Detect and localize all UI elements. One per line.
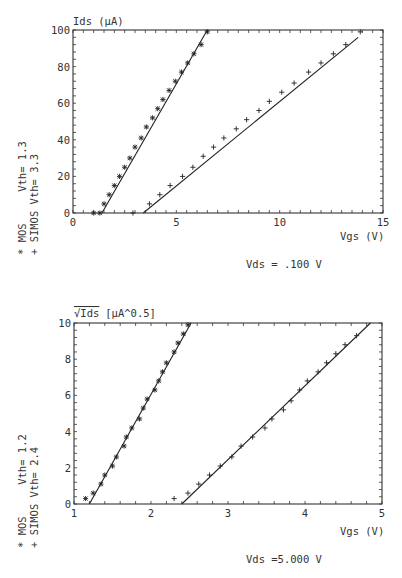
asterisk-marker xyxy=(199,42,204,47)
plus-marker xyxy=(238,443,243,448)
plus-marker xyxy=(218,463,223,468)
chart-canvas: Ids (µA) Vgs (V) Vds = .100 V * MOS Vth=… xyxy=(0,0,402,578)
asterisk-marker xyxy=(97,210,102,215)
asterisk-marker xyxy=(124,434,129,439)
asterisk-marker xyxy=(175,340,180,345)
asterisk-marker xyxy=(141,405,146,410)
plot-frame xyxy=(73,30,383,213)
asterisk-marker xyxy=(164,360,169,365)
asterisk-marker xyxy=(185,60,190,65)
x-tick-label: 10 xyxy=(273,216,286,228)
y-tick-label: 40 xyxy=(57,134,70,146)
plot1-legend-mos: * MOS Vth= 1.3 xyxy=(16,141,28,255)
plus-marker xyxy=(306,69,311,74)
plot2-x-axis-label: Vgs (V) xyxy=(340,525,384,537)
plot2-y-axis-label-root: √Ids xyxy=(74,307,99,319)
asterisk-marker xyxy=(150,115,155,120)
plus-marker xyxy=(305,378,310,383)
y-tick-label: 20 xyxy=(57,170,70,182)
asterisk-marker xyxy=(107,192,112,197)
y-tick-label: 0 xyxy=(64,207,70,219)
x-tick-label: 5 xyxy=(379,507,385,519)
plot2-legend-simos: + SIMOS Vth= 2.4 xyxy=(28,447,40,548)
x-tick-label: 3 xyxy=(225,507,231,519)
asterisk-marker xyxy=(137,416,142,421)
asterisk-marker xyxy=(127,156,132,161)
asterisk-marker xyxy=(145,396,150,401)
plus-marker xyxy=(244,117,249,122)
y-tick-label: 10 xyxy=(58,317,71,329)
asterisk-marker xyxy=(167,88,172,93)
y-tick-label: 6 xyxy=(65,389,71,401)
asterisk-marker xyxy=(132,145,137,150)
simos-fit-line xyxy=(182,323,371,504)
y-tick-label: 4 xyxy=(65,426,71,438)
mos-fit-line xyxy=(102,30,207,213)
plus-marker xyxy=(315,369,320,374)
asterisk-marker xyxy=(98,481,103,486)
x-tick-label: 5 xyxy=(173,216,179,228)
simos-fit-line xyxy=(143,37,358,213)
plus-marker xyxy=(279,90,284,95)
asterisk-marker xyxy=(155,106,160,111)
x-tick-label: 4 xyxy=(302,507,308,519)
plus-marker xyxy=(297,387,302,392)
y-tick-label: 8 xyxy=(65,353,71,365)
asterisk-marker xyxy=(83,496,88,501)
plus-marker xyxy=(221,135,226,140)
plus-marker xyxy=(318,60,323,65)
plus-marker xyxy=(234,126,239,131)
plus-marker xyxy=(289,398,294,403)
y-tick-label: 60 xyxy=(57,97,70,109)
asterisk-marker xyxy=(191,51,196,56)
plot1-legend-simos: + SIMOS Vth= 3.3 xyxy=(28,154,40,255)
asterisk-marker xyxy=(91,210,96,215)
plus-marker xyxy=(168,183,173,188)
plus-marker xyxy=(256,108,261,113)
plus-marker xyxy=(324,360,329,365)
x-tick-label: 15 xyxy=(377,216,390,228)
y-tick-label: 0 xyxy=(65,498,71,510)
plus-marker xyxy=(229,454,234,459)
y-tick-label: 100 xyxy=(51,24,70,36)
plus-marker xyxy=(211,145,216,150)
asterisk-marker xyxy=(102,472,107,477)
plot2-y-axis-label: √Ids[µA^0.5] xyxy=(74,307,156,319)
plus-marker xyxy=(172,496,177,501)
asterisk-marker xyxy=(117,174,122,179)
plus-marker xyxy=(250,434,255,439)
x-tick-label: 0 xyxy=(70,216,76,228)
asterisk-marker xyxy=(122,165,127,170)
plot2-vds-annotation: Vds =5.000 V xyxy=(246,553,323,565)
plot-frame xyxy=(74,323,382,504)
plus-marker xyxy=(292,80,297,85)
asterisk-marker xyxy=(101,201,106,206)
plot1-vds-annotation: Vds = .100 V xyxy=(246,258,323,270)
plus-marker xyxy=(267,99,272,104)
asterisk-marker xyxy=(172,349,177,354)
y-tick-label: 80 xyxy=(57,61,70,73)
asterisk-marker xyxy=(112,183,117,188)
plot2-y-axis-label-units: [µA^0.5] xyxy=(105,307,156,319)
asterisk-marker xyxy=(181,331,186,336)
x-tick-label: 2 xyxy=(148,507,154,519)
y-tick-label: 2 xyxy=(65,462,71,474)
plot1-x-axis-label: Vgs (V) xyxy=(340,230,384,242)
asterisk-marker xyxy=(179,69,184,74)
plot2-legend-mos: * MOS Vth= 1.2 xyxy=(16,434,28,548)
asterisk-marker xyxy=(91,491,96,496)
asterisk-marker xyxy=(156,378,161,383)
plus-marker xyxy=(180,174,185,179)
plus-marker xyxy=(157,192,162,197)
plus-marker xyxy=(207,472,212,477)
asterisk-marker xyxy=(121,443,126,448)
asterisk-marker xyxy=(173,79,178,84)
asterisk-marker xyxy=(110,463,115,468)
plus-marker xyxy=(333,351,338,356)
asterisk-marker xyxy=(144,124,149,129)
plus-marker xyxy=(190,165,195,170)
asterisk-marker xyxy=(129,425,134,430)
asterisk-marker xyxy=(185,322,190,327)
ids-vs-vgs-plot: Ids (µA) Vgs (V) Vds = .100 V * MOS Vth=… xyxy=(16,15,389,270)
plus-marker xyxy=(269,416,274,421)
